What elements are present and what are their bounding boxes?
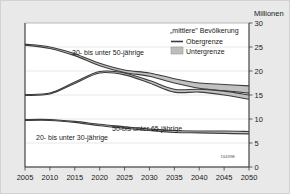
x-tick-label: 2005 — [17, 173, 34, 182]
y-tick-label: 25 — [255, 43, 263, 52]
x-tick-label: 2050 — [241, 173, 258, 182]
series-label-30-50: 30- bis unter 50-jährige — [72, 49, 144, 57]
y-axis-unit-label: Millionen — [254, 9, 284, 18]
y-tick-label: 20 — [255, 67, 263, 76]
x-tick-label: 2035 — [166, 173, 183, 182]
legend-item-obergrenze: Obergrenze — [186, 38, 223, 46]
x-axis-tick-labels: 2005201020152020202520302035204020452050 — [17, 173, 258, 182]
y-tick-label: 5 — [255, 139, 259, 148]
legend-item-untergrenze: Untergrenze — [186, 48, 225, 56]
x-tick-label: 2015 — [66, 173, 83, 182]
legend-title: „mittlere" Bevölkerung — [170, 27, 239, 35]
y-tick-label: 30 — [255, 19, 263, 28]
chart-figure: Millionen 051015202530 20052010201520202… — [0, 0, 290, 194]
x-tick-label: 2045 — [216, 173, 233, 182]
y-axis-tick-labels: 051015202530 — [255, 19, 263, 172]
y-tick-label: 10 — [255, 115, 263, 124]
y-tick-label: 0 — [255, 163, 259, 172]
legend-untergrenze-box-icon — [171, 47, 183, 54]
x-tick-label: 2030 — [141, 173, 158, 182]
x-tick-label: 2020 — [91, 173, 108, 182]
x-tick-label: 2025 — [116, 173, 133, 182]
x-tick-label: 2010 — [42, 173, 59, 182]
y-tick-label: 15 — [255, 91, 263, 100]
source-code-label: 16439E — [221, 154, 236, 159]
x-tick-label: 2040 — [191, 173, 208, 182]
population-projection-chart: Millionen 051015202530 20052010201520202… — [0, 0, 290, 194]
series-label-20-30: 20- bis unter 30-jährige — [36, 134, 108, 142]
series-label-50-65: 50-bis unter 65-jährige — [112, 125, 182, 133]
